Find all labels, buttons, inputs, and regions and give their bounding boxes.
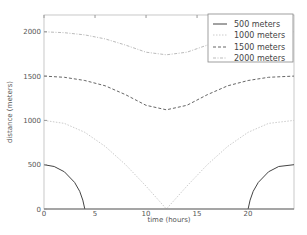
y-tick-label: 1500 <box>23 73 41 81</box>
legend-label-500: 500 meters <box>234 20 280 29</box>
x-tick-label: 15 <box>193 210 202 218</box>
x-axis-label: time (hours) <box>147 216 190 224</box>
y-tick-label: 0 <box>37 206 41 214</box>
x-tick-label: 5 <box>93 210 97 218</box>
line-chart: 05101520 0500100015002000 time (hours) d… <box>0 0 307 235</box>
legend: 500 meters 1000 meters 1500 meters 2000 … <box>208 14 293 63</box>
x-tick-label: 0 <box>42 210 46 218</box>
y-ticks: 0500100015002000 <box>23 28 47 213</box>
y-axis-label: distance (meters) <box>6 81 14 143</box>
legend-label-2000: 2000 meters <box>234 54 285 63</box>
legend-label-1500: 1500 meters <box>234 43 285 52</box>
y-tick-label: 1000 <box>23 117 41 125</box>
y-tick-label: 500 <box>28 161 41 169</box>
y-tick-label: 2000 <box>23 28 41 36</box>
x-tick-label: 20 <box>244 210 253 218</box>
legend-label-1000: 1000 meters <box>234 31 285 40</box>
